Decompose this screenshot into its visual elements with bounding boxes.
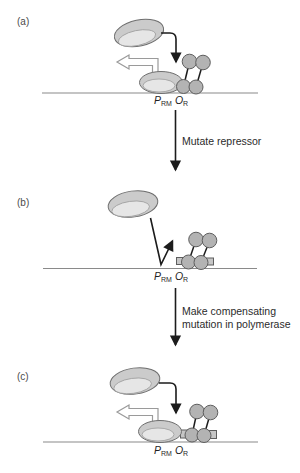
panel-label-b: (b) [17, 197, 29, 208]
repressor-subunit-circle [196, 55, 211, 70]
repressor-subunit-circle [190, 404, 205, 419]
promoter-symbol: P [154, 94, 161, 106]
free-polymerase [112, 15, 166, 51]
operator-subscript: R [183, 276, 188, 283]
panel-b [43, 188, 257, 270]
repressor-dimer-mutated [177, 232, 217, 269]
failed-binding-arrow [151, 218, 173, 265]
repressor-subunit-circle [189, 80, 203, 94]
operator-subscript: R [183, 450, 188, 457]
promoter-subscript: RM [161, 100, 172, 107]
panel-label-c: (c) [17, 371, 29, 382]
repressor-subunit-circle [194, 256, 208, 270]
promoter-subscript: RM [161, 450, 172, 457]
bound-polymerase [140, 72, 183, 94]
promoter-operator-label: PRMOR [154, 94, 188, 107]
promoter-operator-label: PRMOR [154, 444, 188, 457]
step-label-line: mutation in polymerase [182, 318, 291, 331]
operator-symbol: O [175, 444, 183, 456]
promoter-symbol: P [154, 444, 161, 456]
repressor-subunit-circle [197, 429, 211, 443]
operator-subscript: R [183, 100, 188, 107]
promoter-symbol: P [154, 270, 161, 282]
step-label-mutate-repressor: Mutate repressor [182, 135, 261, 148]
recruitment-arrow [161, 33, 176, 62]
operator-symbol: O [175, 270, 183, 282]
panel-c [43, 365, 258, 443]
figure-canvas: (a) (b) (c) PRMOR PRMOR PRMOR Mutate rep… [0, 0, 300, 473]
step-label-compensating-mutation: Make compensating mutation in polymerase [182, 305, 291, 330]
recruitment-arrow [159, 383, 176, 413]
promoter-operator-label: PRMOR [154, 270, 188, 283]
step-label-line: Mutate repressor [182, 135, 261, 148]
repressor-subunit-circle [182, 54, 197, 69]
repressor-subunit-circle [202, 233, 217, 248]
repressor-subunit-circle [177, 80, 191, 94]
panel-label-a: (a) [17, 16, 29, 27]
repressor-subunit-circle [203, 405, 218, 420]
diagram-graphics [0, 0, 300, 473]
operator-symbol: O [175, 94, 183, 106]
free-polymerase [108, 365, 161, 398]
step-label-line: Make compensating [182, 305, 291, 318]
repressor-dimer [177, 54, 211, 94]
repressor-subunit-circle [182, 255, 196, 269]
promoter-subscript: RM [161, 276, 172, 283]
repressor-subunit-circle [189, 232, 204, 247]
panel-a [42, 15, 258, 94]
bound-polymerase [139, 421, 182, 443]
free-polymerase [106, 188, 159, 221]
